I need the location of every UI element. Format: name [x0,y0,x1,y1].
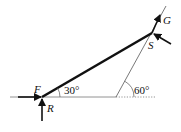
label-r: R [46,102,54,114]
force-diagram: F R S G 30° 60° [0,0,181,132]
label-f: F [33,83,41,95]
angle-arc-30 [58,88,60,97]
label-s: S [148,39,154,51]
force-g-arrow [152,15,160,33]
label-g: G [163,14,171,26]
force-s-arrow [154,34,171,44]
angle-arc-60 [125,81,134,97]
label-angle-30: 30° [64,84,79,96]
label-angle-60: 60° [134,84,149,96]
